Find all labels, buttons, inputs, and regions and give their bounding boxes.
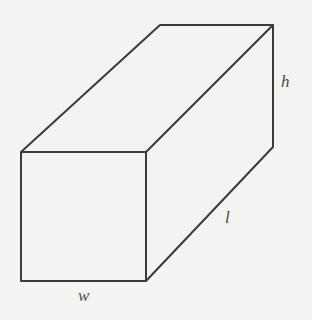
width-label: w [78,287,89,304]
prism-diagram [0,0,312,320]
right-face-edges [146,25,273,281]
top-face-edges [21,25,273,152]
front-face [21,152,146,281]
height-label: h [281,73,290,90]
length-label: l [225,209,230,226]
